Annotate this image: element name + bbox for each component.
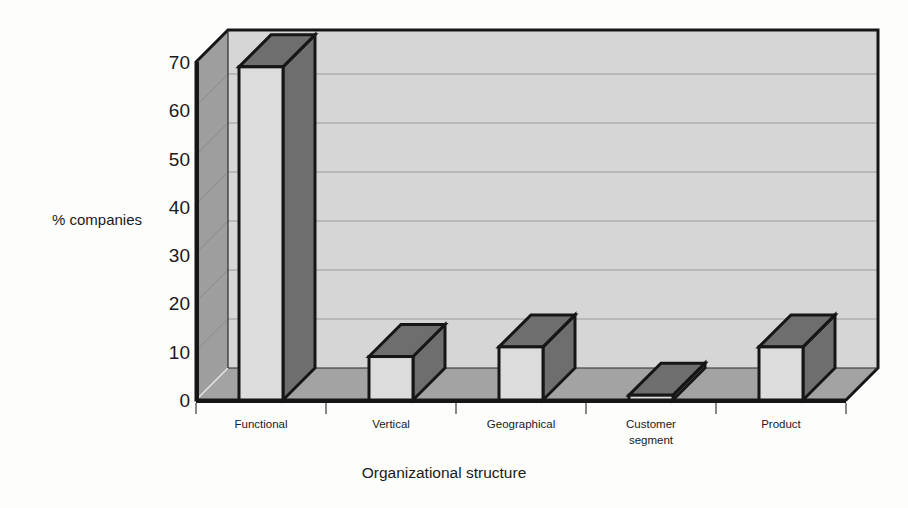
y-axis-title: % companies [52,211,142,228]
x-axis-categories: FunctionalVerticalGeographicalCustomerse… [234,418,801,446]
bar-chart: 010203040506070 FunctionalVerticalGeogra… [0,0,908,508]
y-tick-label: 40 [169,197,190,218]
bar [239,35,315,400]
chart-svg: 010203040506070 FunctionalVerticalGeogra… [0,0,908,508]
x-category-label: Product [761,418,801,430]
y-tick-label: 20 [169,293,190,314]
x-category-label: Geographical [487,418,555,430]
plot-left-wall [196,30,228,400]
x-category-label: Functional [234,418,287,430]
x-category-label: Customersegment [626,418,676,446]
y-tick-label: 0 [179,390,190,411]
y-tick-label: 70 [169,52,190,73]
y-tick-label: 60 [169,100,190,121]
y-axis-ticks: 010203040506070 [169,52,190,411]
y-tick-label: 30 [169,245,190,266]
y-tick-label: 10 [169,342,190,363]
y-tick-label: 50 [169,149,190,170]
x-axis-title: Organizational structure [362,464,527,481]
x-category-label: Vertical [372,418,410,430]
x-axis-tickmarks [196,403,846,414]
